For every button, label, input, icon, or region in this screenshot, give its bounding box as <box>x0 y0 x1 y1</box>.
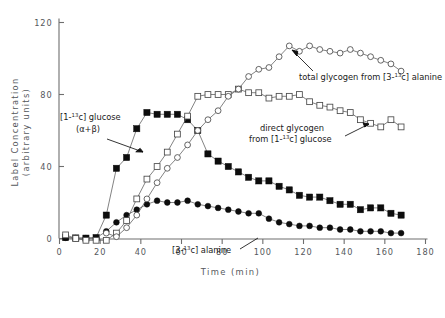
data-point <box>297 92 303 98</box>
data-point <box>175 131 181 137</box>
annotation-glucose-line2: (α+β) <box>76 124 100 134</box>
data-point <box>358 117 364 123</box>
data-point <box>164 111 170 117</box>
annotation-glucose-line1: [1-13c] glucose <box>60 112 121 122</box>
data-point <box>388 230 394 236</box>
data-point <box>276 54 282 60</box>
data-point <box>154 198 160 204</box>
data-point <box>378 57 384 63</box>
data-point <box>124 218 130 224</box>
data-point <box>398 124 404 130</box>
data-point <box>195 201 201 207</box>
data-point <box>307 194 313 200</box>
data-point <box>266 178 272 184</box>
data-point <box>195 128 201 134</box>
data-point <box>327 48 333 54</box>
data-point <box>317 102 323 108</box>
annotation-direct-glycogen-line1: direct glycogen <box>260 123 324 133</box>
data-point <box>124 212 130 218</box>
data-point <box>307 99 313 105</box>
data-point <box>175 200 181 206</box>
data-point <box>124 225 130 231</box>
data-point <box>256 178 262 184</box>
data-point <box>307 43 313 49</box>
data-point <box>358 228 364 234</box>
data-point <box>256 66 262 72</box>
data-point <box>297 223 303 229</box>
data-point <box>327 198 333 204</box>
data-point <box>317 194 323 200</box>
data-point <box>73 236 79 242</box>
data-point <box>235 169 241 175</box>
data-point <box>368 228 374 234</box>
data-point <box>266 95 272 101</box>
data-point <box>286 187 292 193</box>
data-point <box>154 111 160 117</box>
data-point <box>185 113 191 119</box>
data-point <box>357 207 363 213</box>
annotation-direct-glycogen-line2: from [1-13c] glucose <box>249 134 332 144</box>
x-tick-label: 0 <box>56 247 62 257</box>
data-point <box>246 174 252 180</box>
data-point <box>174 111 180 117</box>
data-point <box>276 219 282 225</box>
data-point <box>398 212 404 218</box>
x-tick-label: 180 <box>416 247 434 257</box>
data-point <box>215 205 221 211</box>
data-point <box>358 50 364 56</box>
data-point <box>114 219 120 225</box>
y-axis-title-line1: Label Concentration <box>10 77 20 186</box>
chart-figure: 02040608010012014016018004080120Time (mi… <box>0 0 445 318</box>
annotation-total-glycogen: total glycogen from [3-13c] alanine <box>299 72 442 82</box>
data-point <box>215 158 221 164</box>
data-point <box>368 120 374 126</box>
data-point <box>388 61 394 67</box>
data-point <box>307 223 313 229</box>
data-point <box>337 108 343 114</box>
data-point <box>276 183 282 189</box>
chart-canvas: 02040608010012014016018004080120Time (mi… <box>0 0 445 318</box>
data-point <box>205 117 211 123</box>
data-point <box>144 196 150 202</box>
data-point <box>398 230 404 236</box>
data-point <box>296 192 302 198</box>
data-point <box>205 151 211 157</box>
data-point <box>286 221 292 227</box>
data-point <box>205 203 211 209</box>
data-point <box>388 117 394 123</box>
data-point <box>378 205 384 211</box>
y-tick-label: 0 <box>46 234 52 244</box>
y-tick-label: 120 <box>34 18 52 28</box>
data-point <box>368 205 374 211</box>
data-point <box>266 65 272 71</box>
x-tick-label: 120 <box>294 247 312 257</box>
data-point <box>205 92 211 98</box>
data-point <box>215 92 221 98</box>
data-point <box>215 108 221 114</box>
x-tick-label: 100 <box>254 247 272 257</box>
data-point <box>327 104 333 110</box>
data-point <box>317 225 323 231</box>
data-point <box>164 200 170 206</box>
data-point <box>327 225 333 231</box>
data-point <box>266 216 272 222</box>
data-point <box>347 47 353 53</box>
data-point <box>347 110 353 116</box>
x-tick-label: 20 <box>94 247 106 257</box>
data-point <box>378 124 384 130</box>
data-point <box>103 237 109 243</box>
series-open-square <box>63 86 404 243</box>
data-point <box>225 163 231 169</box>
data-point <box>113 165 119 171</box>
data-point <box>93 237 99 243</box>
data-point <box>185 142 191 148</box>
data-point <box>83 237 89 243</box>
data-point <box>256 90 262 96</box>
data-point <box>236 86 242 92</box>
data-point <box>114 234 120 240</box>
data-point <box>103 230 109 236</box>
data-point <box>246 90 252 96</box>
data-point <box>378 228 384 234</box>
data-point <box>154 180 160 186</box>
x-axis-title: Time (min) <box>200 267 261 277</box>
